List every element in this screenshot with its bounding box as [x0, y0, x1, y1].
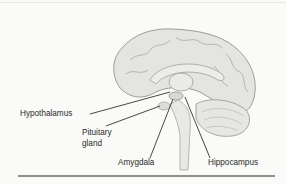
leader-lines — [90, 92, 210, 158]
figure-panel: Hypothalamus Pituitary gland Amygdala Hi… — [0, 0, 286, 184]
label-hypothalamus: Hypothalamus — [20, 109, 72, 119]
label-amygdala: Amygdala — [118, 158, 154, 168]
label-pituitary-line2: gland — [82, 139, 102, 149]
label-pituitary-line1: Pituitary — [82, 128, 112, 138]
brain-illustration — [0, 0, 286, 184]
bottom-rule — [18, 175, 275, 177]
label-hippocampus: Hippocampus — [208, 158, 258, 168]
